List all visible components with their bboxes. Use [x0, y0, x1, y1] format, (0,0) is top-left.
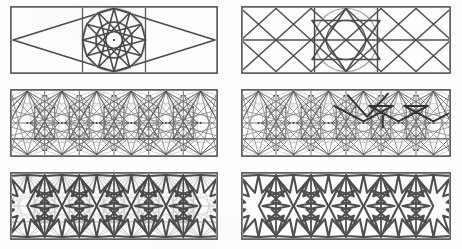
panel-step-6-finished-pattern — [241, 172, 451, 240]
panel-step-4-construction-web-right — [241, 89, 451, 157]
panel-step-3-construction-web-left — [10, 89, 218, 157]
panel-step-2-diagonal-lattice — [241, 6, 451, 74]
panel-step-1-rhombus-and-circle — [10, 6, 218, 74]
figure-sheet — [0, 0, 462, 249]
panel-step-5-pattern-over-construction — [10, 172, 218, 240]
